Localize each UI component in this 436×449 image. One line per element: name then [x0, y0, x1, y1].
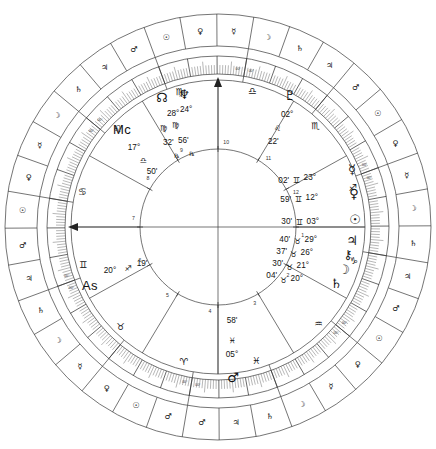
planet-sign-mercury: ♊ — [293, 176, 300, 185]
planet-sun: ☉03°♊30' — [281, 212, 361, 227]
planet-saturn: ♄20°♉04' — [266, 271, 342, 290]
degree-tick — [106, 338, 112, 345]
decan-ruler-glyph: ☽ — [264, 33, 271, 42]
degree-tick — [230, 62, 231, 75]
degree-tick — [73, 295, 81, 299]
planet-minute-moon: 30' — [272, 259, 283, 268]
decan-divider — [182, 405, 187, 437]
degree-tick — [166, 372, 169, 381]
degree-tick — [159, 76, 162, 84]
decan-ruler-glyph: ☉ — [374, 109, 381, 118]
degree-tick — [57, 211, 66, 212]
degree-tick — [61, 265, 70, 267]
degree-tick — [124, 351, 129, 358]
house-cusp-tick — [257, 291, 260, 296]
degree-tick — [88, 326, 102, 338]
degree-tick — [98, 330, 105, 336]
degree-tick — [124, 353, 131, 364]
degree-tick — [241, 67, 242, 76]
degree-tick — [58, 249, 67, 250]
house-number-11: 11 — [266, 155, 271, 161]
degree-tick — [319, 342, 325, 349]
degree-tick — [57, 208, 66, 209]
planet-glyph-pluto: ♇ — [284, 88, 296, 103]
planet-minute-venus: 59' — [280, 195, 291, 204]
degree-tick — [149, 366, 154, 378]
degree-tick — [311, 349, 316, 356]
degree-tick — [61, 189, 70, 191]
cusp-degree-label: 00° — [97, 118, 103, 122]
degree-tick — [60, 260, 69, 262]
cusp-degree-label: 00° — [195, 383, 201, 387]
planet-minute-saturn: 04' — [266, 271, 277, 280]
degree-tick — [356, 293, 364, 297]
degree-tick — [195, 67, 196, 76]
planet-jupiter: ♃29°♉40' — [279, 233, 358, 248]
planet-glyph-chiron: ⚷ — [343, 247, 353, 262]
degree-tick — [371, 218, 380, 219]
planet-chiron: ⚷26°♉37' — [276, 247, 352, 262]
degree-tick — [259, 71, 261, 80]
decan-ruler-glyph: ♃ — [101, 63, 108, 72]
planet-degree-venus: 12° — [306, 193, 318, 202]
degree-tick — [121, 350, 126, 357]
degree-tick — [63, 270, 72, 273]
decan-divider — [374, 119, 402, 135]
decan-divider — [396, 189, 427, 195]
degree-tick — [370, 212, 383, 213]
degree-tick — [50, 254, 68, 257]
degree-tick — [57, 244, 66, 245]
degree-tick — [286, 364, 290, 372]
planet-minute-sun: 30' — [281, 217, 292, 226]
planet-degree-mars: 05° — [226, 350, 238, 359]
zodiac-glyph-aries: ♈ — [179, 356, 188, 367]
sign-cusp-line — [269, 365, 281, 397]
degree-tick — [366, 187, 375, 189]
planet-moon: ☽21°♉30' — [272, 259, 350, 276]
degree-tick — [360, 284, 368, 287]
planet-degree-sun: 03° — [307, 217, 319, 226]
degree-tick — [151, 79, 155, 87]
axis-midheaven: Mc17°♎50' — [113, 122, 158, 176]
degree-tick — [69, 165, 77, 168]
decan-divider — [33, 122, 61, 138]
degree-tick — [153, 367, 157, 375]
degree-tick — [253, 376, 255, 385]
degree-tick — [187, 59, 190, 77]
planet-glyph-mercury: ☿ — [348, 162, 356, 177]
degree-tick — [329, 116, 336, 122]
planet-sign-neptune: ♍ — [160, 124, 167, 133]
decan-divider — [18, 290, 48, 301]
house-number-2: 2 — [287, 272, 290, 278]
decan-ruler-glyph: ☽ — [298, 400, 305, 409]
planet-glyph-mars: ♂ — [227, 370, 239, 385]
house-cusp-tick — [147, 188, 152, 191]
retrograde-icon-north-node: ℞ — [189, 150, 194, 157]
degree-tick — [312, 99, 318, 106]
degree-tick — [322, 108, 328, 115]
axis-sign-midheaven: ♎ — [139, 156, 146, 165]
degree-tick — [359, 286, 367, 289]
degree-tick — [183, 69, 185, 78]
degree-tick — [309, 97, 314, 104]
degree-tick — [240, 378, 241, 387]
cusp-degree-label: 00° — [69, 286, 75, 290]
degree-tick — [318, 104, 324, 111]
degree-tick — [248, 377, 250, 386]
house-number-7: 7 — [132, 215, 135, 221]
degree-tick — [371, 215, 380, 216]
zodiac-glyph-cancer: ♋ — [78, 186, 87, 197]
degree-tick — [89, 320, 96, 325]
cusp-degree-label: 00° — [362, 163, 368, 167]
degree-tick — [266, 372, 269, 381]
degree-tick — [335, 116, 349, 128]
cusp-degree-label: 00° — [367, 176, 373, 180]
degree-tick — [58, 267, 71, 270]
degree-tick — [66, 170, 74, 173]
planet-degree-mercury: 23° — [304, 173, 316, 182]
degree-tick — [107, 109, 113, 116]
degree-tick — [100, 332, 107, 338]
degree-tick — [170, 72, 173, 81]
degree-tick — [366, 183, 379, 186]
degree-tick — [68, 292, 80, 298]
